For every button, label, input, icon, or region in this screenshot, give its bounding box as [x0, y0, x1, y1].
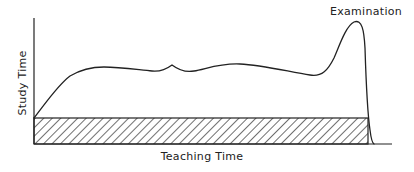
diagram-canvas	[0, 0, 414, 172]
x-axis-label: Teaching Time	[0, 150, 402, 163]
study-time-diagram: Examination Study Time Teaching Time	[0, 0, 414, 172]
examination-label: Examination	[330, 5, 402, 18]
y-axis-label: Study Time	[16, 50, 29, 115]
teaching-time-band	[34, 118, 368, 144]
